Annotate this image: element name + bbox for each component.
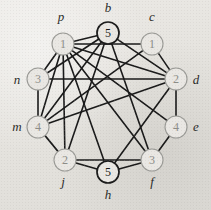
graph-node-c[interactable]: 1 xyxy=(141,33,163,55)
node-value-m: 4 xyxy=(35,120,41,134)
node-value-p: 1 xyxy=(60,37,66,51)
graph-edge xyxy=(114,87,170,163)
graph-node-b[interactable]: 5 xyxy=(97,22,119,44)
vertex-label-j: j xyxy=(59,174,65,189)
graph-node-p[interactable]: 1 xyxy=(52,33,74,55)
graph-canvas: 1512435243 pbcdefhjmn xyxy=(0,0,211,210)
node-value-f: 3 xyxy=(149,153,155,167)
node-value-c: 1 xyxy=(149,37,155,51)
vertex-label-f: f xyxy=(150,174,156,189)
graph-node-j[interactable]: 2 xyxy=(54,149,76,171)
graph-edge xyxy=(63,55,65,150)
graph-node-n[interactable]: 3 xyxy=(27,68,49,90)
graph-edge xyxy=(75,163,98,169)
graph-edge xyxy=(118,163,142,169)
vertex-label-m: m xyxy=(12,119,21,134)
graph-edge xyxy=(45,135,59,152)
vertex-label-p: p xyxy=(57,9,65,24)
vertex-label-n: n xyxy=(14,72,21,87)
node-value-h: 5 xyxy=(105,165,111,179)
graph-node-h[interactable]: 5 xyxy=(97,161,119,183)
graph-node-e[interactable]: 4 xyxy=(165,116,187,138)
graph-edge xyxy=(46,50,143,121)
graph-node-m[interactable]: 4 xyxy=(27,116,49,138)
vertex-label-e: e xyxy=(193,119,199,134)
graph-node-d[interactable]: 2 xyxy=(165,68,187,90)
node-value-b: 5 xyxy=(105,26,111,40)
node-value-n: 3 xyxy=(35,72,41,86)
graph-edge xyxy=(158,135,170,151)
vertex-label-h: h xyxy=(105,187,112,202)
vertex-label-b: b xyxy=(105,0,112,15)
graph-edge xyxy=(111,43,148,150)
node-value-d: 2 xyxy=(173,72,179,86)
graph-node-f[interactable]: 3 xyxy=(141,149,163,171)
node-value-e: 4 xyxy=(173,120,179,134)
node-value-j: 2 xyxy=(62,153,68,167)
vertex-label-c: c xyxy=(149,9,155,24)
graph-edge xyxy=(73,35,98,41)
graph-figure: 1512435243 pbcdefhjmn xyxy=(0,0,211,210)
vertex-label-d: d xyxy=(193,72,200,87)
